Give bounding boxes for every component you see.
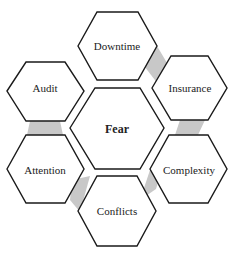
center-label: Fear	[105, 122, 129, 137]
conflicts-label: Conflicts	[97, 205, 137, 217]
downtime-label: Downtime	[94, 40, 140, 52]
attention-label: Attention	[24, 164, 66, 176]
audit-label: Audit	[32, 82, 57, 94]
complexity-label: Complexity	[163, 164, 215, 176]
connector-attention-audit	[27, 121, 63, 135]
insurance-label: Insurance	[169, 82, 212, 94]
connector-insurance-complexity	[175, 120, 205, 135]
